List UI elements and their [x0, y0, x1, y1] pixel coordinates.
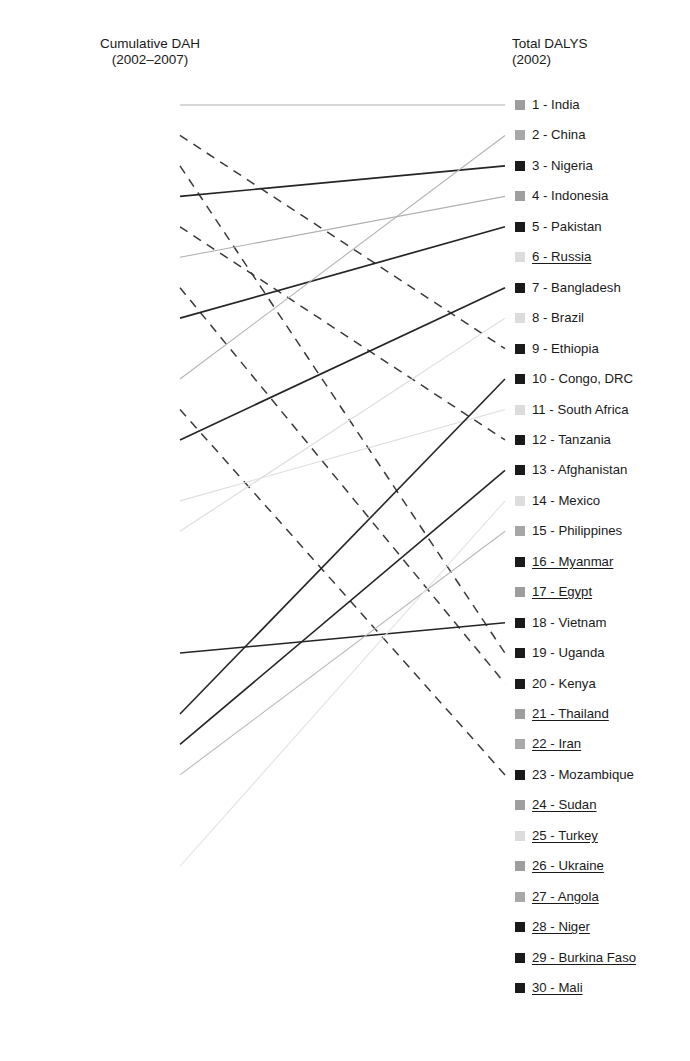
rank-marker-swatch: [515, 283, 525, 293]
right-node-row[interactable]: 14 - Mexico: [515, 493, 600, 509]
right-node-row[interactable]: 27 - Angola: [515, 889, 599, 905]
right-node-row[interactable]: 29 - Burkina Faso: [515, 950, 636, 966]
right-node-row[interactable]: 10 - Congo, DRC: [515, 371, 633, 387]
connector-line: [180, 379, 505, 714]
rank-marker-swatch: [515, 222, 525, 232]
rank-marker-swatch: [515, 800, 525, 810]
rank-marker-swatch: [515, 618, 525, 628]
rank-marker-swatch: [515, 861, 525, 871]
right-node-label: 4 - Indonesia: [532, 188, 608, 204]
rank-marker-swatch: [515, 100, 525, 110]
rank-marker-swatch: [515, 831, 525, 841]
rank-marker-swatch: [515, 526, 525, 536]
connector-line: [180, 227, 505, 318]
rank-marker-swatch: [515, 679, 525, 689]
right-node-label: 6 - Russia: [532, 249, 591, 265]
right-node-row[interactable]: 16 - Myanmar: [515, 554, 613, 570]
right-node-row[interactable]: 26 - Ukraine: [515, 858, 604, 874]
connector-line: [180, 166, 505, 196]
right-node-row[interactable]: 30 - Mali: [515, 980, 583, 996]
right-node-label: 22 - Iran: [532, 736, 581, 752]
right-column-header: Total DALYS (2002): [512, 36, 690, 68]
right-node-row[interactable]: 21 - Thailand: [515, 706, 609, 722]
right-node-row[interactable]: 2 - China: [515, 127, 586, 143]
right-node-label: 17 - Egypt: [532, 584, 592, 600]
rank-marker-swatch: [515, 161, 525, 171]
right-node-label: 18 - Vietnam: [532, 615, 607, 631]
right-node-row[interactable]: 20 - Kenya: [515, 676, 596, 692]
rank-marker-swatch: [515, 648, 525, 658]
right-node-label: 1 - India: [532, 97, 580, 113]
rank-marker-swatch: [515, 344, 525, 354]
right-node-label: 28 - Niger: [532, 919, 590, 935]
connector-line: [180, 470, 505, 744]
left-column-header: Cumulative DAH (2002–2007): [60, 36, 240, 68]
right-node-row[interactable]: 5 - Pakistan: [515, 219, 602, 235]
right-node-row[interactable]: 12 - Tanzania: [515, 432, 611, 448]
right-node-label: 7 - Bangladesh: [532, 280, 621, 296]
right-node-row[interactable]: 15 - Philippines: [515, 523, 622, 539]
right-node-label: 26 - Ukraine: [532, 858, 604, 874]
right-node-row[interactable]: 6 - Russia: [515, 249, 591, 265]
connector-line: [180, 135, 505, 379]
right-node-row[interactable]: 17 - Egypt: [515, 584, 592, 600]
right-node-row[interactable]: 7 - Bangladesh: [515, 280, 621, 296]
rank-marker-swatch: [515, 953, 525, 963]
connector-line: [180, 135, 505, 348]
rank-marker-swatch: [515, 587, 525, 597]
right-node-row[interactable]: 13 - Afghanistan: [515, 462, 627, 478]
connector-line: [180, 227, 505, 440]
rank-marker-swatch: [515, 252, 525, 262]
right-node-label: 16 - Myanmar: [532, 554, 613, 570]
right-node-label: 12 - Tanzania: [532, 432, 611, 448]
rank-marker-swatch: [515, 191, 525, 201]
right-node-row[interactable]: 28 - Niger: [515, 919, 590, 935]
rank-marker-swatch: [515, 313, 525, 323]
right-node-label: 9 - Ethiopia: [532, 341, 599, 357]
rank-marker-swatch: [515, 130, 525, 140]
right-node-row[interactable]: 8 - Brazil: [515, 310, 584, 326]
right-node-row[interactable]: 24 - Sudan: [515, 797, 597, 813]
right-node-row[interactable]: 18 - Vietnam: [515, 615, 607, 631]
right-node-label: 5 - Pakistan: [532, 219, 602, 235]
right-node-label: 27 - Angola: [532, 889, 599, 905]
right-node-label: 25 - Turkey: [532, 828, 598, 844]
right-node-row[interactable]: 22 - Iran: [515, 736, 581, 752]
right-node-row[interactable]: 3 - Nigeria: [515, 158, 593, 174]
right-node-label: 2 - China: [532, 127, 586, 143]
right-node-label: 23 - Mozambique: [532, 767, 634, 783]
right-node-label: 8 - Brazil: [532, 310, 584, 326]
rank-marker-swatch: [515, 983, 525, 993]
right-node-label: 29 - Burkina Faso: [532, 950, 636, 966]
right-node-row[interactable]: 19 - Uganda: [515, 645, 605, 661]
right-node-row[interactable]: 23 - Mozambique: [515, 767, 634, 783]
right-node-label: 30 - Mali: [532, 980, 583, 996]
rank-marker-swatch: [515, 892, 525, 902]
connector-line: [180, 501, 505, 866]
right-node-label: 3 - Nigeria: [532, 158, 593, 174]
connector-line: [180, 410, 505, 501]
right-node-row[interactable]: 1 - India: [515, 97, 580, 113]
right-node-label: 19 - Uganda: [532, 645, 605, 661]
slopegraph-figure: Cumulative DAH (2002–2007) Total DALYS (…: [0, 0, 690, 1061]
connector-line: [180, 318, 505, 531]
right-node-label: 15 - Philippines: [532, 523, 622, 539]
connector-line: [180, 196, 505, 257]
right-node-row[interactable]: 25 - Turkey: [515, 828, 598, 844]
connector-line: [180, 288, 505, 440]
right-node-row[interactable]: 4 - Indonesia: [515, 188, 608, 204]
right-node-row[interactable]: 11 - South Africa: [515, 402, 629, 418]
rank-marker-swatch: [515, 770, 525, 780]
rank-marker-swatch: [515, 435, 525, 445]
right-node-label: 11 - South Africa: [532, 402, 629, 418]
rank-marker-swatch: [515, 709, 525, 719]
rank-marker-swatch: [515, 922, 525, 932]
right-node-label: 13 - Afghanistan: [532, 462, 627, 478]
connector-line: [180, 531, 505, 775]
connector-line: [180, 166, 505, 653]
right-node-label: 10 - Congo, DRC: [532, 371, 633, 387]
right-node-row[interactable]: 9 - Ethiopia: [515, 341, 599, 357]
right-node-label: 24 - Sudan: [532, 797, 597, 813]
rank-marker-swatch: [515, 496, 525, 506]
rank-marker-swatch: [515, 739, 525, 749]
